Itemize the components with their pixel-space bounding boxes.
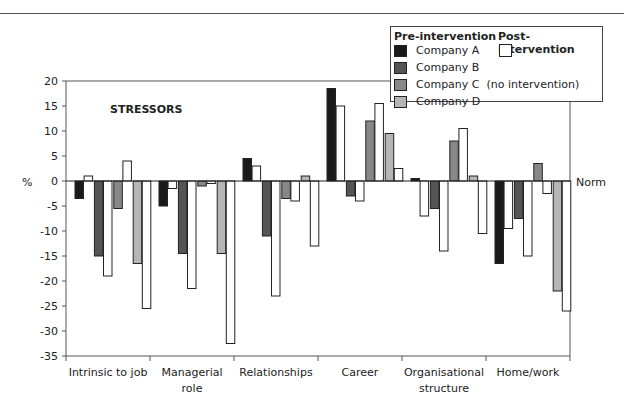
y-tick-label: -15 <box>40 250 58 263</box>
legend-swatch <box>394 96 407 108</box>
legend-item-company-a: Company A <box>394 44 479 57</box>
bar <box>243 159 252 182</box>
bar <box>114 181 123 209</box>
y-tick-label: 20 <box>44 75 58 88</box>
y-tick-label: 0 <box>51 175 58 188</box>
bar <box>272 181 281 296</box>
x-category-label: Relationships <box>239 366 313 379</box>
x-category-label: Home/work <box>497 366 560 379</box>
bar <box>84 176 93 181</box>
bar <box>478 181 487 234</box>
bar <box>524 181 533 256</box>
x-category-label: role <box>182 382 203 395</box>
bar <box>336 106 345 181</box>
bar <box>327 89 336 182</box>
bar <box>562 181 571 311</box>
bar <box>198 181 207 186</box>
y-tick-label: -20 <box>40 275 58 288</box>
bar <box>450 141 459 181</box>
legend-pre-heading: Pre-intervention <box>394 30 496 43</box>
legend-item-company-b: Company B <box>394 61 479 74</box>
bar <box>514 181 523 219</box>
x-category-label: Career <box>342 366 379 379</box>
y-tick-label: -25 <box>40 300 58 313</box>
bar <box>346 181 355 196</box>
legend-swatch <box>394 62 407 74</box>
chart-title: STRESSORS <box>110 103 183 116</box>
y-tick-label: -30 <box>40 325 58 338</box>
bar <box>133 181 142 264</box>
legend-label: Company B <box>416 61 479 74</box>
legend-item-company-c: Company C (no intervention) <box>394 78 579 91</box>
bar <box>301 176 310 181</box>
bar <box>504 181 512 229</box>
bar <box>394 169 403 182</box>
bar <box>75 181 84 199</box>
legend-post-heading: Post-intervention <box>498 30 602 56</box>
bar <box>469 176 478 181</box>
bar <box>94 181 103 256</box>
legend-label: Company D <box>416 95 480 108</box>
bar <box>495 181 504 264</box>
y-tick-label: -10 <box>40 225 58 238</box>
bar <box>385 134 394 182</box>
bar <box>375 104 384 182</box>
bar <box>252 166 261 181</box>
bar <box>366 121 375 181</box>
y-tick-label: -35 <box>40 350 58 363</box>
legend-label: Company A <box>416 44 479 57</box>
y-tick-label: 10 <box>44 125 58 138</box>
y-tick-label: 15 <box>44 100 58 113</box>
bar <box>534 164 543 182</box>
bar <box>459 129 468 182</box>
bar <box>226 181 235 344</box>
y-tick-label: -5 <box>47 200 58 213</box>
legend-label: Company C (no intervention) <box>416 78 579 91</box>
x-category-label: structure <box>419 382 469 395</box>
bar <box>159 181 168 206</box>
x-category-label: Intrinsic to job <box>69 366 148 379</box>
bar <box>142 181 151 309</box>
legend-post-swatch <box>499 44 512 57</box>
legend-swatch <box>394 45 407 57</box>
legend: Pre-intervention Post-intervention Compa… <box>390 26 603 102</box>
bar <box>168 181 177 189</box>
x-category-label: Managerial <box>161 366 222 379</box>
bar <box>217 181 226 254</box>
bar <box>188 181 197 289</box>
bar <box>310 181 319 246</box>
bar <box>104 181 113 276</box>
norm-label: Norm <box>576 176 606 189</box>
bar <box>123 161 131 181</box>
y-axis-label: % <box>22 176 32 189</box>
legend-swatch <box>394 79 407 91</box>
x-category-label: Organisational <box>404 366 484 379</box>
legend-item-company-d: Company D <box>394 95 480 108</box>
bar <box>420 181 429 216</box>
bar <box>553 181 562 291</box>
bar <box>440 181 449 251</box>
bar <box>282 181 291 199</box>
bar <box>543 181 552 194</box>
bar <box>430 181 439 209</box>
bar <box>178 181 187 254</box>
bar <box>291 181 300 201</box>
y-tick-label: 5 <box>51 150 58 163</box>
bar <box>356 181 365 201</box>
bar <box>262 181 271 236</box>
